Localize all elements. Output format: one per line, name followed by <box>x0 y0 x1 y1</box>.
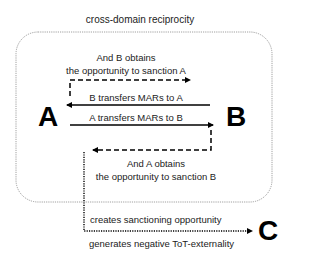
label-negative-externality: generates negative ToT-externality <box>89 238 234 249</box>
diagram-title: cross-domain reciprocity <box>86 14 194 25</box>
label-a-obtains: And A obtains <box>127 158 185 169</box>
label-a-to-b: A transfers MARs to B <box>89 112 182 123</box>
label-b-obtains: And B obtains <box>96 52 155 63</box>
label-creates-sanctioning: creates sanctioning opportunity <box>90 214 222 225</box>
node-b: B <box>226 103 246 131</box>
label-b-to-a: B transfers MARs to A <box>89 92 182 103</box>
node-a: A <box>38 103 58 131</box>
dashed-arrow-a-sanction <box>93 130 211 150</box>
node-c: C <box>258 217 278 245</box>
label-a-sanction-b: the opportunity to sanction B <box>96 171 216 182</box>
label-b-sanction-a: the opportunity to sanction A <box>66 65 186 76</box>
